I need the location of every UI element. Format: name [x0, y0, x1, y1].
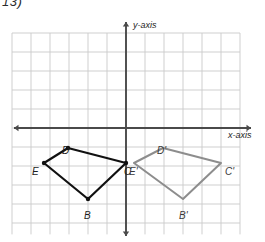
vertex-label-e: E [32, 166, 39, 177]
vertex-point-E [42, 161, 46, 165]
vertex-point-C [124, 161, 128, 165]
vertex-label-d-prime: D' [157, 145, 166, 156]
x-axis-label: x-axis [228, 130, 252, 140]
vertex-label-c-prime: C' [225, 166, 234, 177]
vertex-label-d: D [62, 145, 69, 156]
worksheet-figure-page: 13) y-axis x-axis B C D E B' C' D' E' [0, 0, 265, 242]
vertex-point-B [86, 197, 90, 201]
y-axis-label: y-axis [133, 20, 157, 30]
axis-arrow-left [14, 125, 19, 131]
vertex-label-b: B [84, 210, 91, 221]
vertex-label-e-prime: E' [129, 166, 138, 177]
polygon-BpCpDpEp [134, 148, 221, 199]
axis-arrow-up [123, 22, 129, 27]
polygon-BCDE [44, 148, 126, 199]
vertex-label-b-prime: B' [179, 210, 188, 221]
axis-arrow-down [123, 232, 129, 237]
coordinate-plane-figure [0, 0, 265, 242]
